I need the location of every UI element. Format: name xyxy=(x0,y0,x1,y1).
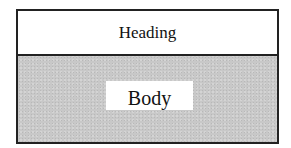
layout-frame: Heading Body xyxy=(16,9,279,144)
heading-label: Heading xyxy=(119,23,177,43)
body-label-box: Body xyxy=(106,81,193,110)
body-label: Body xyxy=(128,88,171,108)
body-section: Body xyxy=(18,56,277,142)
heading-section: Heading xyxy=(18,11,277,56)
